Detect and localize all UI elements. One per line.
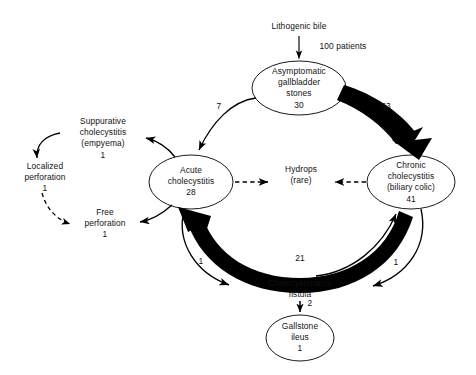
edge-label-63: 63 [381, 101, 391, 112]
node-label-acute-line-2: cholecystitis [168, 176, 214, 187]
node-label-asymptomatic-line-3: stones [272, 88, 326, 99]
node-label-localized-perforation: Localized perforation 1 [24, 161, 65, 195]
node-label-ileus-line-2: ileus [282, 332, 318, 343]
edge-acute-to-suppurative [146, 138, 175, 157]
node-label-localized-line-1: Localized [24, 161, 65, 172]
edge-localized-to-free [42, 193, 70, 224]
edge-acute-to-free [140, 205, 172, 222]
node-count-free: 1 [84, 230, 125, 241]
node-count-suppurative: 1 [80, 149, 126, 160]
node-label-localized-line-2: perforation [24, 172, 65, 183]
node-label-asymptomatic: Asymptomatic gallbladder stones 30 [272, 66, 326, 111]
node-label-suppurative-line-2: cholecystitis [80, 127, 126, 138]
node-count-acute: 28 [168, 188, 214, 199]
node-label-free-line-1: Free [84, 207, 125, 218]
node-label-gallstone-ileus: Gallstone ileus 1 [282, 321, 318, 355]
edge-label-100-patients: 100 patients [320, 41, 367, 52]
edge-asymptomatic-to-acute [199, 98, 256, 150]
node-label-acute: Acute cholecystitis 28 [168, 165, 214, 199]
node-label-fistula-line-2: fistula [268, 289, 332, 300]
node-count-localized: 1 [24, 184, 65, 195]
source-label-text: Lithogenic bile [271, 21, 326, 32]
node-label-free-line-2: perforation [84, 218, 125, 229]
node-label-ileus-line-1: Gallstone [282, 321, 318, 332]
edge-label-1-left: 1 [199, 256, 204, 267]
node-label-asymptomatic-line-1: Asymptomatic [272, 66, 326, 77]
source-label-lithogenic-bile: Lithogenic bile [271, 21, 326, 32]
node-label-chronic-line-3: (biliary colic) [387, 182, 435, 193]
node-label-fistula-line-1: Cholecystenteric [268, 278, 332, 289]
edge-label-7: 7 [217, 101, 222, 112]
node-label-chronic-line-1: Chronic [387, 160, 435, 171]
node-count-chronic: 41 [387, 193, 435, 204]
edge-label-21: 21 [295, 253, 305, 264]
node-label-fistula: Cholecystenteric fistula [268, 278, 332, 300]
node-label-free-perforation: Free perforation 1 [84, 207, 125, 241]
node-label-suppurative-line-1: Suppurative [80, 116, 126, 127]
node-count-ileus: 1 [282, 344, 318, 355]
edge-label-1-right: 1 [394, 257, 399, 268]
diagram-canvas: Lithogenic bile 100 patients 7 63 21 1 1… [0, 0, 476, 375]
node-label-asymptomatic-line-2: gallbladder [272, 77, 326, 88]
node-label-suppurative: Suppurative cholecystitis (empyema) 1 [80, 116, 126, 161]
node-label-chronic: Chronic cholecystitis (biliary colic) 41 [387, 160, 435, 205]
node-label-hydrops-line-1: Hydrops [285, 164, 317, 175]
node-label-suppurative-line-3: (empyema) [80, 138, 126, 149]
node-count-asymptomatic: 30 [272, 99, 326, 110]
node-label-chronic-line-2: cholecystitis [387, 171, 435, 182]
edge-suppurative-to-localized [37, 133, 60, 158]
node-label-hydrops: Hydrops (rare) [285, 164, 317, 186]
node-label-acute-line-1: Acute [168, 165, 214, 176]
node-label-hydrops-line-2: (rare) [285, 175, 317, 186]
